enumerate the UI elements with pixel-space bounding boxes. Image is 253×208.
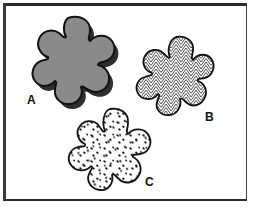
shape-a-svg	[24, 14, 124, 110]
figure-panel: A B C	[0, 0, 253, 208]
shape-c	[62, 106, 154, 194]
shape-a	[24, 14, 124, 110]
shape-label-b: B	[205, 111, 214, 123]
shape-c-svg	[62, 106, 154, 194]
shape-label-a: A	[27, 94, 36, 106]
shape-a-body	[33, 17, 115, 104]
shape-label-c: C	[145, 176, 154, 188]
